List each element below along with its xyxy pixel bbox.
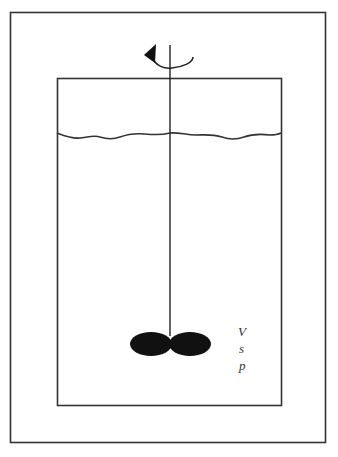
label-v: V xyxy=(238,324,248,339)
liquid-surface xyxy=(57,133,281,139)
rotation-arrow-icon xyxy=(144,44,193,68)
stirred-tank-diagram: V s p xyxy=(0,0,338,457)
impeller-blade-right xyxy=(169,332,211,356)
impeller-blade-left xyxy=(130,332,172,356)
label-p: p xyxy=(238,358,246,373)
label-s: s xyxy=(239,341,244,356)
